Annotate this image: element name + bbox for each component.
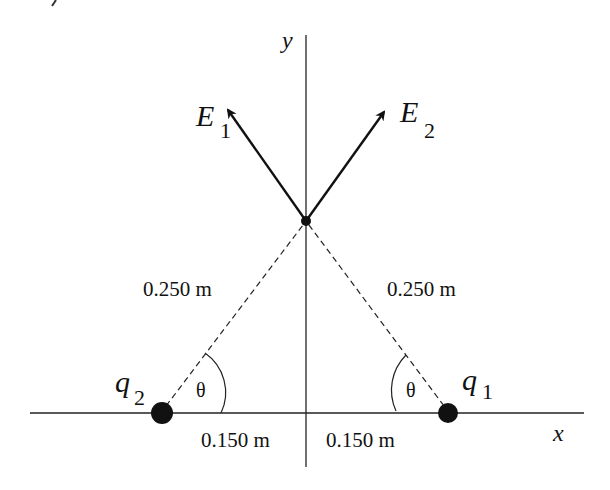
q1-label: q <box>462 363 477 396</box>
e2-label: E <box>399 95 418 128</box>
cropped-label-fragment <box>52 0 56 6</box>
electric-field-diagram: x y E 1 E 2 q 2 q 1 θ θ 0.250 m 0.250 m … <box>0 0 610 490</box>
field-point <box>301 216 311 226</box>
left-base-label: 0.150 m <box>201 428 270 452</box>
e1-subscript: 1 <box>220 118 231 143</box>
left-angle-arc <box>205 353 226 413</box>
e1-label: E <box>195 99 214 132</box>
right-distance-line <box>306 221 444 406</box>
charge-q2 <box>151 402 173 424</box>
x-axis-label: x <box>552 420 564 446</box>
left-hypotenuse-label: 0.250 m <box>143 277 212 301</box>
q2-label: q <box>115 365 130 398</box>
right-base-label: 0.150 m <box>326 428 395 452</box>
right-angle-label: θ <box>406 379 416 401</box>
left-angle-label: θ <box>196 379 206 401</box>
right-hypotenuse-label: 0.250 m <box>387 277 456 301</box>
e2-subscript: 2 <box>424 118 435 143</box>
y-axis-label: y <box>280 27 293 53</box>
q2-subscript: 2 <box>134 385 145 410</box>
right-angle-arc <box>391 355 406 411</box>
charge-q1 <box>438 403 458 423</box>
q1-subscript: 1 <box>482 379 493 404</box>
left-distance-line <box>166 221 306 406</box>
e1-vector-arrow <box>228 110 306 221</box>
e2-vector-arrow <box>306 112 384 221</box>
